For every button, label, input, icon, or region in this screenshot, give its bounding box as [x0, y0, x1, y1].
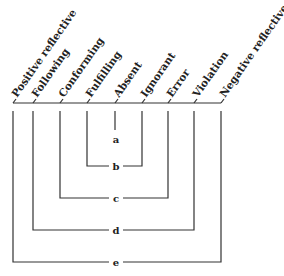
brackets: abcde — [13, 111, 221, 268]
bracket-label: a — [113, 134, 120, 145]
bracket-label: c — [113, 193, 119, 204]
category-labels: Positive reflectiveFollowingConformingFu… — [9, 2, 284, 103]
category-label: Error — [164, 66, 192, 99]
bracket-label: d — [113, 225, 120, 236]
bracket-label: e — [113, 257, 119, 268]
category-tick — [221, 99, 224, 103]
category-label: Negative reflective — [217, 2, 284, 99]
bracket-c: c — [60, 111, 168, 204]
bracket-d: d — [33, 111, 194, 236]
bracket-label: b — [113, 161, 120, 172]
bracket-diagram: Positive reflectiveFollowingConformingFu… — [0, 0, 284, 276]
bracket-a: a — [113, 111, 120, 145]
